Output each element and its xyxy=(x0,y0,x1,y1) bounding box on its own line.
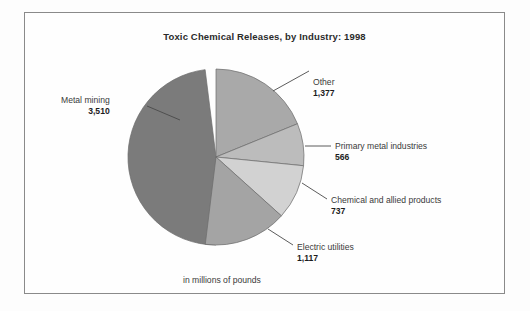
pie-slice-group xyxy=(128,69,304,245)
slice-label-name: Electric utilities xyxy=(297,242,354,253)
slice-label-primary-metal-industries: Primary metal industries 566 xyxy=(335,141,427,163)
chart-frame: Toxic Chemical Releases, by Industry: 19… xyxy=(24,12,505,294)
slice-label-name: Metal mining xyxy=(61,95,110,106)
slice-label-metal-mining: Metal mining 3,510 xyxy=(61,95,110,117)
slice-label-value: 3,510 xyxy=(61,106,110,117)
pie-chart xyxy=(25,13,506,295)
leader-line-other xyxy=(273,71,309,91)
slice-label-value: 1,377 xyxy=(313,88,335,99)
slice-label-other: Other 1,377 xyxy=(313,77,335,99)
slice-label-value: 737 xyxy=(331,206,441,217)
slice-label-electric-utilities: Electric utilities 1,117 xyxy=(297,242,354,264)
slice-label-name: Other xyxy=(313,77,335,88)
slice-label-value: 1,117 xyxy=(297,253,354,264)
leader-line-electric xyxy=(268,229,293,245)
slice-label-name: Chemical and allied products xyxy=(331,195,441,206)
pie-slice-metal-mining xyxy=(128,70,216,245)
leader-line-chemical xyxy=(302,183,327,199)
slice-label-name: Primary metal industries xyxy=(335,141,427,152)
slice-label-chemical-and-allied-products: Chemical and allied products 737 xyxy=(331,195,441,217)
slice-label-value: 566 xyxy=(335,152,427,163)
chart-footnote: in millions of pounds xyxy=(183,275,261,285)
